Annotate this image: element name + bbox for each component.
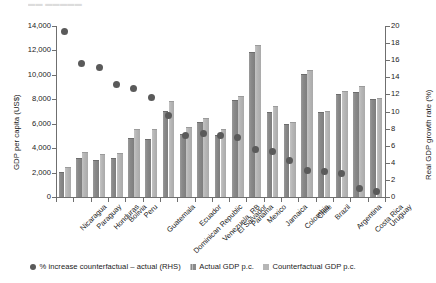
legend-label: Actual GDP p.c. [199,262,254,271]
legend-item: Actual GDP p.c. [190,262,254,271]
figure-root: ▬▬ ▬▬▬▬▬ 14,00012,00010,0008,0006,0004,0… [0,0,436,283]
x-axis-category-label: Guatemala [166,203,197,234]
legend-item: Counterfactual GDP p.c. [263,262,356,271]
x-axis-category-label: Brazil [334,203,353,222]
x-axis-category-label: Chile [316,203,334,221]
legend-label: % increase counterfactual – actual (RHS) [40,262,181,271]
chart-legend: % increase counterfactual – actual (RHS)… [30,262,365,271]
legend-circle-icon [30,264,36,270]
legend-square-light-icon [263,264,269,270]
legend-item: % increase counterfactual – actual (RHS) [30,262,181,271]
legend-label: Counterfactual GDP p.c. [272,262,355,271]
x-axis-category-labels: NicaraguaParaguayHondurasBoliviaPeruGuat… [0,0,436,283]
legend-square-dark-icon [190,264,196,270]
